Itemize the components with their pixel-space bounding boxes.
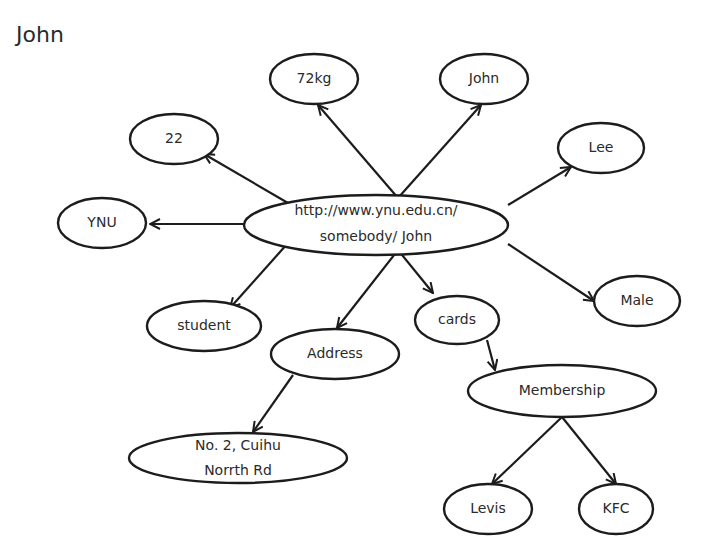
node-address: Address	[271, 329, 399, 379]
edge-center-gender	[508, 244, 594, 301]
rdf-graph: http://www.ynu.edu.cn/ somebody/ John 22…	[0, 0, 705, 555]
node-cards-label: cards	[438, 311, 476, 327]
node-school: YNU	[58, 198, 146, 248]
node-last-name-label: Lee	[589, 139, 614, 155]
edges	[150, 105, 616, 484]
edge-center-age	[204, 154, 288, 203]
edge-membership-levis	[492, 417, 562, 484]
node-center-line1: http://www.ynu.edu.cn/	[295, 202, 458, 218]
node-occupation-label: student	[177, 317, 231, 333]
node-address-value-line2: Norrth Rd	[204, 462, 272, 478]
node-cards: cards	[415, 296, 499, 344]
node-weight-label: 72kg	[297, 70, 332, 86]
node-levis: Levis	[444, 484, 532, 534]
node-first-name: John	[440, 54, 528, 104]
node-center-line2: somebody/ John	[320, 228, 432, 244]
node-address-label: Address	[307, 345, 363, 361]
node-address-value: No. 2, Cuihu Norrth Rd	[129, 433, 347, 483]
node-address-value-line1: No. 2, Cuihu	[195, 437, 281, 453]
node-occupation: student	[147, 301, 261, 351]
edge-center-student	[230, 243, 288, 308]
edge-center-cards	[398, 250, 433, 293]
node-membership: Membership	[468, 365, 656, 417]
node-weight: 72kg	[270, 54, 358, 104]
node-gender-label: Male	[620, 292, 653, 308]
edge-center-address	[337, 250, 398, 328]
node-membership-label: Membership	[519, 382, 606, 398]
edge-cards-membership	[487, 340, 495, 370]
edge-center-firstname	[398, 105, 481, 198]
edge-address-value	[253, 375, 293, 432]
node-last-name: Lee	[558, 123, 644, 173]
node-center: http://www.ynu.edu.cn/ somebody/ John	[244, 195, 508, 255]
node-school-label: YNU	[86, 214, 116, 230]
edge-membership-kfc	[562, 417, 616, 484]
node-first-name-label: John	[468, 70, 499, 86]
node-age-label: 22	[165, 130, 183, 146]
node-age: 22	[130, 114, 218, 164]
node-gender: Male	[594, 276, 680, 326]
node-kfc-label: KFC	[602, 500, 629, 516]
edge-center-weight	[318, 105, 398, 198]
node-kfc: KFC	[579, 484, 653, 534]
node-levis-label: Levis	[470, 500, 506, 516]
edge-center-lastname	[508, 167, 571, 205]
